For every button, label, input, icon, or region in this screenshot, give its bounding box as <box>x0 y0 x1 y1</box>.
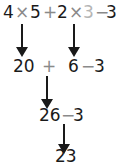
operand-3: 3 <box>106 2 116 22</box>
times-operator: × <box>15 2 29 22</box>
down-arrow-icon <box>63 124 65 146</box>
operand-3: 3 <box>73 105 84 125</box>
times-operator: × <box>69 2 83 22</box>
result-26: 26 <box>39 105 61 125</box>
operand-2: 2 <box>57 2 68 22</box>
operand-5: 5 <box>30 2 41 22</box>
operand-4: 4 <box>3 2 14 22</box>
down-arrow-icon <box>21 24 23 49</box>
down-arrow-icon <box>46 76 48 101</box>
plus-operator: + <box>43 2 57 22</box>
final-result: 23 <box>55 146 77 165</box>
result-6: 6 <box>68 56 79 76</box>
operand-3: 3 <box>83 2 94 22</box>
operand-3: 3 <box>94 56 105 76</box>
down-arrow-icon <box>73 24 75 49</box>
plus-operator: + <box>42 56 56 76</box>
result-20: 20 <box>13 56 35 76</box>
